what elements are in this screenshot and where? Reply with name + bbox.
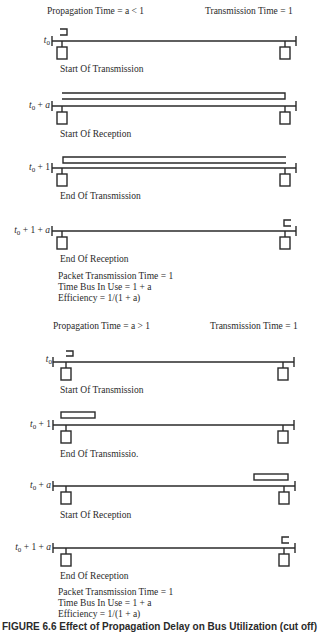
s1-summary-bus-in-use: Time Bus In Use = 1 + a — [58, 283, 152, 293]
s2-time-label-4: t0 + 1 + a — [15, 543, 51, 554]
s2-time-label-2: t0 + 1 — [30, 420, 51, 431]
s2-caption-2: End Of Transmissio. — [60, 450, 138, 460]
bus-s1-p4 — [52, 220, 296, 249]
bus-s2-p2 — [53, 412, 294, 443]
figure-caption: FIGURE 6.6 Effect of Propagation Delay o… — [2, 622, 317, 632]
s1-time-label-2: t0 + a — [29, 101, 50, 112]
s1-caption-3: End Of Transmission — [60, 192, 141, 202]
s1-header-propagation: Propagation Time = a < 1 — [47, 7, 144, 17]
s2-summary-efficiency: Efficiency = 1/(1 + a) — [58, 610, 140, 620]
s1-time-label-1: t0 — [44, 36, 50, 47]
bus-s2-p3 — [53, 474, 295, 504]
s2-summary-bus-in-use: Time Bus In Use = 1 + a — [58, 599, 152, 609]
s1-time-label-3: t0 + 1 — [29, 163, 50, 174]
s1-caption-1: Start Of Transmission — [60, 65, 143, 75]
s2-header-transmission: Transmission Time = 1 — [210, 322, 298, 332]
bus-s1-p3 — [52, 157, 296, 186]
s2-time-label-3: t0 + a — [30, 481, 51, 492]
s2-caption-1: Start Of Transmission — [60, 386, 143, 396]
s1-caption-4: End Of Reception — [60, 255, 129, 265]
s1-time-label-4: t0 + 1 + a — [14, 226, 50, 237]
s2-caption-4: End Of Reception — [60, 572, 129, 582]
bus-s2-p4 — [53, 537, 295, 566]
bus-s1-p2 — [52, 93, 296, 124]
bus-s2-p1 — [53, 351, 294, 380]
s1-header-transmission: Transmission Time = 1 — [205, 7, 293, 17]
bus-s1-p1 — [52, 29, 296, 59]
s2-summary-packet-time: Packet Transmission Time = 1 — [58, 588, 173, 598]
s1-summary-efficiency: Efficiency = 1/(1 + a) — [58, 294, 140, 304]
s1-summary-packet-time: Packet Transmission Time = 1 — [58, 272, 173, 282]
s2-caption-3: Start Of Reception — [60, 511, 131, 521]
s2-header-propagation: Propagation Time = a > 1 — [53, 322, 150, 332]
s2-time-label-1: t0 — [46, 355, 52, 366]
s1-caption-2: Start Of Reception — [60, 130, 131, 140]
